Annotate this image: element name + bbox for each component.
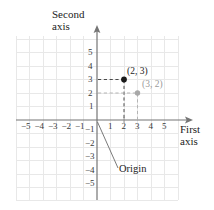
coordinate-plane-figure: Second axis First axis −5 −4 −3 −2 −1 1 … bbox=[0, 0, 214, 210]
x-axis-title-line2: axis bbox=[180, 136, 200, 148]
ytick-minus1: −1 bbox=[85, 124, 95, 134]
point-2-3-label: (2, 3) bbox=[127, 66, 148, 76]
xtick-minus2: −2 bbox=[62, 121, 72, 131]
ytick-2: 2 bbox=[88, 88, 93, 98]
ytick-minus4: −4 bbox=[85, 165, 95, 175]
xtick-minus5: −5 bbox=[21, 121, 31, 131]
ytick-minus5: −5 bbox=[85, 178, 95, 188]
ytick-1: 1 bbox=[89, 101, 94, 111]
x-axis-title-line1: First bbox=[180, 124, 200, 136]
point-2-3-marker bbox=[121, 77, 127, 83]
point-3-2-marker bbox=[135, 90, 140, 95]
xtick-3: 3 bbox=[135, 121, 140, 131]
y-axis-title: Second axis bbox=[52, 9, 84, 32]
xtick-minus4: −4 bbox=[35, 121, 45, 131]
point-3-2-label: (3, 2) bbox=[142, 79, 163, 89]
x-axis-title: First axis bbox=[180, 124, 200, 147]
xtick-1: 1 bbox=[108, 121, 113, 131]
ytick-3: 3 bbox=[88, 74, 93, 84]
y-axis-title-line2: axis bbox=[52, 21, 84, 33]
xtick-minus1: −1 bbox=[75, 121, 85, 131]
ytick-minus3: −3 bbox=[85, 151, 95, 161]
origin-label: Origin bbox=[119, 163, 146, 174]
xtick-4: 4 bbox=[149, 121, 154, 131]
coordinate-plane-svg bbox=[0, 0, 214, 210]
ytick-5: 5 bbox=[88, 47, 93, 57]
ytick-4: 4 bbox=[88, 61, 93, 71]
xtick-2: 2 bbox=[122, 121, 127, 131]
y-axis-title-line1: Second bbox=[52, 9, 84, 21]
xtick-minus3: −3 bbox=[48, 121, 58, 131]
xtick-5: 5 bbox=[162, 121, 167, 131]
ytick-minus2: −2 bbox=[85, 138, 95, 148]
